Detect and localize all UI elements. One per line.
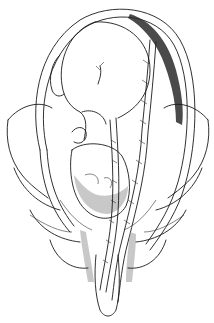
fetal-head (71, 144, 130, 219)
uterus-outline (36, 9, 195, 250)
cord-prolapse-illustration (0, 0, 214, 323)
fetus (50, 22, 150, 143)
illustration-canvas: Line drawing illustration of a fetus ins… (0, 0, 214, 323)
placenta (128, 14, 183, 125)
